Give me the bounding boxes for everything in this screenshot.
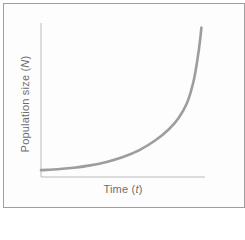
x-axis-label-close: ) (139, 183, 143, 195)
x-axis-label: Time (t) (103, 184, 142, 195)
growth-curve (41, 28, 201, 171)
y-axis-variable: N (19, 59, 31, 67)
y-axis-label: Population size (N) (20, 56, 31, 153)
x-axis-label-text: Time ( (103, 183, 135, 195)
y-axis-label-text: Population size ( (19, 68, 31, 153)
y-axis-label-close: ) (19, 56, 31, 60)
